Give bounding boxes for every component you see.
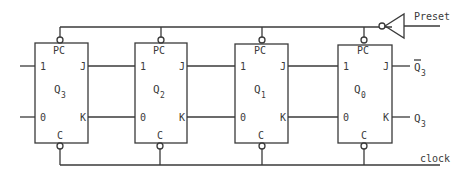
svg-text:C: C [361,130,367,141]
svg-text:C: C [57,130,63,141]
svg-text:K: K [80,112,86,123]
svg-text:3: 3 [421,69,426,78]
svg-text:PC: PC [357,45,369,56]
inverter-icon [385,14,404,38]
svg-text:K: K [280,112,286,123]
svg-text:Q: Q [414,112,421,125]
svg-text:J: J [280,61,286,72]
svg-text:0: 0 [343,112,349,123]
svg-text:1: 1 [343,61,349,72]
preset-label: Preset [414,11,450,22]
svg-text:Q: Q [414,61,421,74]
flipflop-q0: PC C 1 0 J K Q 0 [338,27,392,165]
svg-text:PC: PC [254,45,266,56]
svg-text:2: 2 [160,91,165,100]
svg-text:0: 0 [361,91,366,100]
clock-label: clock [420,153,450,164]
output-q3: Q 3 [414,112,426,129]
svg-text:J: J [179,61,185,72]
svg-text:PC: PC [153,45,165,56]
svg-text:PC: PC [53,45,65,56]
svg-text:Q: Q [354,83,361,96]
svg-text:3: 3 [421,120,426,129]
svg-text:1: 1 [261,91,266,100]
flipflop-q3: PC C 1 0 J K Q 3 [20,27,88,165]
svg-text:J: J [383,61,389,72]
output-q3-bar: Q 3 [414,60,426,78]
svg-text:1: 1 [40,61,46,72]
svg-text:Q: Q [153,83,160,96]
svg-text:1: 1 [140,61,146,72]
svg-text:C: C [258,130,264,141]
svg-text:J: J [80,61,86,72]
svg-text:C: C [157,130,163,141]
svg-text:Q: Q [54,83,61,96]
svg-text:K: K [383,112,389,123]
svg-text:Q: Q [254,83,261,96]
shift-register-diagram: Preset clock PC C 1 0 J K Q 3 PC C 1 0 J… [0,0,472,177]
flipflop-q1: PC C 1 0 J K Q 1 [235,27,288,165]
svg-text:1: 1 [240,61,246,72]
svg-text:0: 0 [40,112,46,123]
svg-text:K: K [179,112,185,123]
svg-text:0: 0 [140,112,146,123]
flipflop-q2: PC C 1 0 J K Q 2 [135,27,187,165]
svg-text:3: 3 [61,91,66,100]
svg-text:0: 0 [240,112,246,123]
